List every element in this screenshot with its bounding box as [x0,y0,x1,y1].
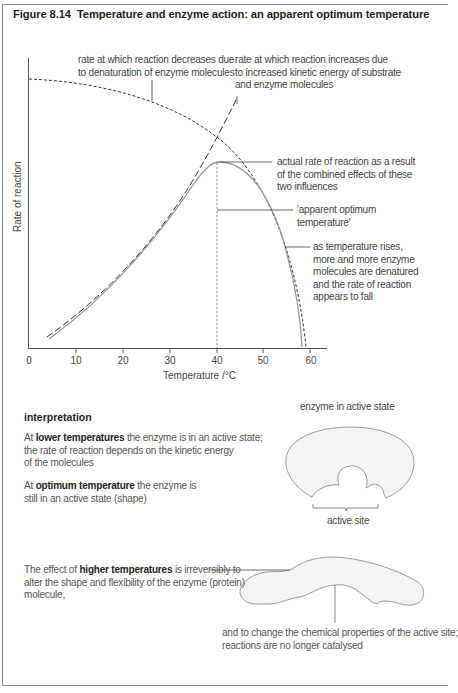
text: of the molecules [24,457,263,470]
para-higher-temps: The effect of higher temperatures is irr… [24,564,245,602]
note-line: to denaturation of enzyme molecules [78,67,234,80]
note-line: two influences [277,181,415,194]
note-line: and enzyme molecules [235,79,401,92]
note-line: appears to fall [313,291,418,304]
active-enzyme-shape [286,427,414,498]
note-line: to increased kinetic energy of substrate [235,67,401,80]
actual-rate-curve [49,162,302,347]
note-line: of the combined effects of these [277,169,415,182]
text: is irreversibly to [172,564,240,575]
x-tick-label: 20 [117,355,128,366]
text: reactions are no longer catalysed [222,640,458,653]
note-line: molecules are denatured [313,266,418,279]
x-tick-label: 30 [164,355,175,366]
text: the rate of reaction depends on the kine… [24,445,263,458]
denaturation-curve [29,79,306,347]
interpretation-heading: interpretation [24,411,92,423]
note-line: rate at which reaction decreases due [78,54,234,67]
emphasis: optimum temperature [36,480,135,491]
note-line: temperature' [297,217,376,230]
note-falls: as temperature rises, more and more enzy… [313,241,418,304]
note-line: and the rate of reaction [313,279,418,292]
note-decrease: rate at which reaction decreases due to … [78,54,234,79]
note-increase: rate at which reaction increases due to … [235,54,401,92]
x-tick-label: 10 [70,355,81,366]
note-line: more and more enzyme [313,254,418,267]
text: and to change the chemical properties of… [222,627,458,640]
y-axis-label: Rate of reaction [12,161,23,232]
note-line: rate at which reaction increases due [235,54,401,67]
x-axis-label: Temperature /°C [163,370,236,381]
note-line: actual rate of reaction as a result [277,156,415,169]
emphasis: lower temperatures [36,432,125,443]
active-enzyme-label: enzyme in active state [300,401,395,414]
note-optimum: 'apparent optimum temperature' [297,204,376,229]
x-tick-label: 40 [211,355,222,366]
para-optimum-temp: At optimum temperature the enzyme is sti… [24,480,196,505]
note-line: as temperature rises, [313,241,418,254]
text: At [24,432,36,443]
note-line: 'apparent optimum [297,204,376,217]
para-lower-temps: At lower temperatures the enzyme is in a… [24,432,263,470]
text: The effect of [24,564,79,575]
x-tick-label: 50 [257,355,268,366]
kinetic-curve [47,100,236,337]
active-site-label: active site [327,515,369,528]
emphasis: higher temperatures [79,564,172,575]
text: still in an active state (shape) [24,493,196,506]
active-site-bracket [313,504,378,511]
text: At [24,480,36,491]
text: the enzyme is [135,480,197,491]
text: molecule, [24,589,245,602]
x-tick-label: 0 [26,355,32,366]
text: alter the shape and flexibility of the e… [24,577,245,590]
denatured-enzyme-shape [240,557,424,605]
text: the enzyme is in an active state; [124,432,262,443]
x-tick-label: 60 [305,355,316,366]
para-chemical-change: and to change the chemical properties of… [222,627,458,652]
note-actual: actual rate of reaction as a result of t… [277,156,415,194]
